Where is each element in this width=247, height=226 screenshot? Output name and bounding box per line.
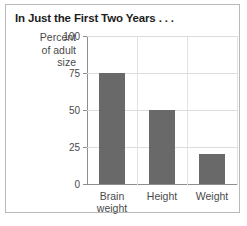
x-category-label-brain-weight-line-1: Brain (97, 190, 127, 202)
x-category-label-weight: Weight (196, 190, 229, 202)
y-tick-label-25: 25 (69, 142, 80, 153)
y-tick-label-75: 75 (69, 68, 80, 79)
bar-height (149, 110, 175, 184)
bar-weight (199, 154, 225, 184)
x-category-label-height: Height (147, 190, 177, 202)
tick-mark-100 (83, 36, 87, 37)
vertical-gridline-3 (237, 36, 238, 185)
x-category-label-brain-weight-line-2: weight (97, 202, 127, 214)
x-category-label-brain-weight: Brain weight (97, 190, 127, 214)
gridline-100 (87, 36, 238, 37)
y-tick-label-0: 0 (74, 179, 80, 190)
tick-mark-0 (83, 184, 87, 185)
tick-mark-25 (83, 147, 87, 148)
y-axis-title-line-3: size (14, 56, 76, 69)
tick-mark-50 (83, 110, 87, 111)
y-axis-title-line-2: of adult (14, 44, 76, 57)
chart-title: In Just the First Two Years . . . (15, 12, 174, 24)
y-tick-label-50: 50 (69, 105, 80, 116)
vertical-gridline-1 (137, 36, 138, 185)
y-tick-label-100: 100 (63, 31, 80, 42)
vertical-gridline-2 (187, 36, 188, 185)
tick-mark-75 (83, 73, 87, 74)
x-axis-line (87, 184, 238, 185)
x-category-label-weight-line-1: Weight (196, 190, 229, 202)
chart-figure: In Just the First Two Years . . . Percen… (5, 4, 240, 213)
plot-area: 100 75 50 25 0 Brain weight Height Weigh… (87, 36, 238, 185)
bar-brain-weight (99, 73, 125, 184)
x-category-label-height-line-1: Height (147, 190, 177, 202)
